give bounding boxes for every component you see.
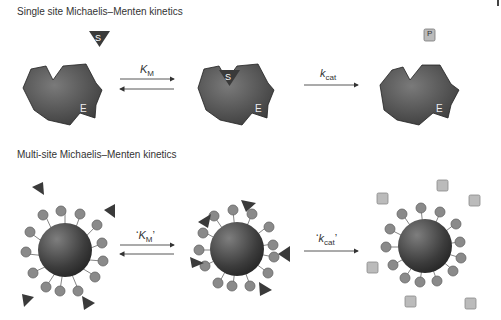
page-edge-mark — [497, 0, 499, 6]
kinetics-diagram — [0, 0, 501, 320]
kcat-label: kcat — [320, 67, 336, 82]
enzyme-label-free: E — [436, 103, 443, 114]
km-reversible-arrows — [120, 79, 174, 89]
km-apparent-reversible-arrows — [120, 245, 174, 254]
km-label: KM — [140, 63, 154, 78]
enzyme-substrate-complex — [198, 64, 274, 125]
enzyme-label: E — [80, 103, 87, 114]
multisite-enzyme-free — [381, 203, 466, 287]
product-label: P — [427, 29, 432, 38]
kcat-apparent-label: ‘kcat’ — [316, 232, 337, 247]
enzyme-label-complex: E — [255, 103, 262, 114]
substrate-label: S — [95, 33, 101, 43]
enzyme-shape — [23, 64, 102, 125]
enzyme-shape-free — [380, 65, 459, 125]
km-apparent-label: ‘KM’ — [136, 229, 155, 244]
multisite-enzyme-sphere — [21, 206, 108, 296]
bound-substrate-label: S — [225, 72, 231, 82]
multisite-enzyme-substrate-complex — [190, 200, 290, 296]
